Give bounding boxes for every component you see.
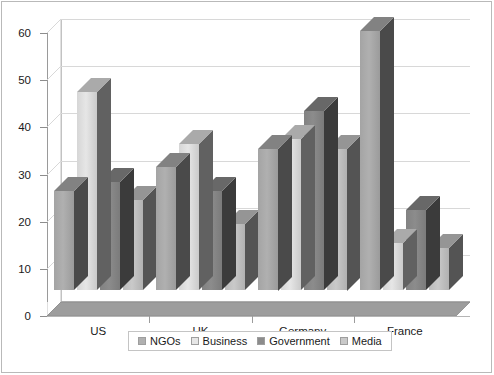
bar-side — [176, 153, 190, 290]
x-category-label: France — [387, 325, 423, 337]
y-tick: 0 — [40, 316, 47, 317]
y-tick-label: 10 — [18, 263, 31, 275]
y-tick: 10 — [40, 269, 47, 270]
bar-chart-figure: 0102030405060 USUKGermanyFrance NGOsBusi… — [0, 0, 494, 375]
legend-item-media[interactable]: Media — [340, 335, 382, 347]
bar-side — [301, 125, 315, 290]
y-tick-label: 40 — [18, 121, 31, 133]
x-axis-line — [47, 316, 470, 317]
legend-label: NGOs — [150, 335, 181, 347]
y-tick: 20 — [40, 222, 47, 223]
bar-side — [120, 168, 134, 290]
bar — [156, 167, 176, 290]
legend-label: Media — [352, 335, 382, 347]
legend-swatch-icon — [257, 337, 265, 345]
bar-side — [324, 97, 338, 290]
legend-swatch-icon — [191, 337, 199, 345]
bar-side — [278, 135, 292, 291]
bar-face — [156, 167, 176, 290]
bar — [258, 149, 278, 291]
bar-side — [97, 78, 111, 290]
y-tick: 50 — [40, 80, 47, 81]
legend-item-government[interactable]: Government — [257, 335, 330, 347]
x-group-tick — [149, 316, 150, 323]
bar-face — [360, 31, 380, 290]
y-tick-label: 50 — [18, 74, 31, 86]
y-tick-label: 60 — [18, 27, 31, 39]
legend-swatch-icon — [340, 337, 348, 345]
bar — [54, 191, 74, 290]
y-tick: 40 — [40, 127, 47, 128]
legend-label: Business — [203, 335, 248, 347]
bar-side — [222, 177, 236, 290]
x-category-label: US — [90, 325, 106, 337]
bar-side — [199, 130, 213, 290]
bar — [360, 31, 380, 290]
y-tick: 30 — [40, 175, 47, 176]
x-group-tick — [354, 316, 355, 323]
bar-side — [380, 17, 394, 290]
chart-legend: NGOsBusinessGovernmentMedia — [128, 331, 392, 351]
y-tick-label: 20 — [18, 216, 31, 228]
y-tick-label: 30 — [18, 169, 31, 181]
bar-side — [143, 186, 157, 290]
bar-face — [258, 149, 278, 291]
bar-side — [347, 135, 361, 291]
y-tick-label: 0 — [25, 310, 31, 322]
legend-item-ngos[interactable]: NGOs — [138, 335, 181, 347]
bar-face — [54, 191, 74, 290]
plot-area: 0102030405060 USUKGermanyFrance — [47, 19, 470, 316]
y-tick: 60 — [40, 33, 47, 34]
bar-side — [426, 196, 440, 290]
bars-layer — [47, 19, 470, 316]
legend-item-business[interactable]: Business — [191, 335, 248, 347]
legend-swatch-icon — [138, 337, 146, 345]
x-group-tick — [252, 316, 253, 323]
bar-side — [74, 177, 88, 290]
legend-label: Government — [269, 335, 330, 347]
